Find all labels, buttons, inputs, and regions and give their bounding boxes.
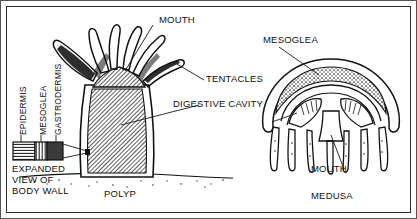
polyp-column-interior: [88, 89, 147, 173]
leader-tentacles: [177, 64, 204, 80]
body-wall-inset: [13, 135, 90, 160]
label-tentacles: TENTACLES: [206, 74, 263, 85]
medusa-manubrium: [319, 111, 343, 141]
label-medusa: MEDUSA: [311, 191, 353, 202]
label-mesoglea-medusa: MESOGLEA: [263, 35, 318, 46]
inset-mesoglea-block: [35, 142, 47, 160]
label-mouth-medusa: MOUTH: [311, 164, 347, 175]
inset-caption: EXPANDED VIEW OF BODY WALL: [12, 164, 69, 197]
label-mouth-polyp: MOUTH: [159, 15, 195, 26]
label-gastrodermis: GASTRODERMIS: [53, 64, 63, 135]
label-digestive-cavity: DIGESTIVE CAVITY: [173, 99, 263, 110]
inset-epidermis-block: [13, 142, 35, 160]
label-epidermis: EPIDERMIS: [18, 86, 28, 135]
label-polyp: POLYP: [104, 189, 136, 200]
inset-origin-marker: [85, 149, 90, 155]
medusa-illustration: [263, 47, 400, 174]
label-mesoglea-wall: MESOGLEA: [38, 86, 48, 135]
figure-root: MOUTH TENTACLES DIGESTIVE CAVITY MESOGLE…: [0, 0, 417, 219]
inset-caption-line3: BODY WALL: [12, 186, 69, 197]
inset-gastrodermis-block: [47, 142, 63, 160]
